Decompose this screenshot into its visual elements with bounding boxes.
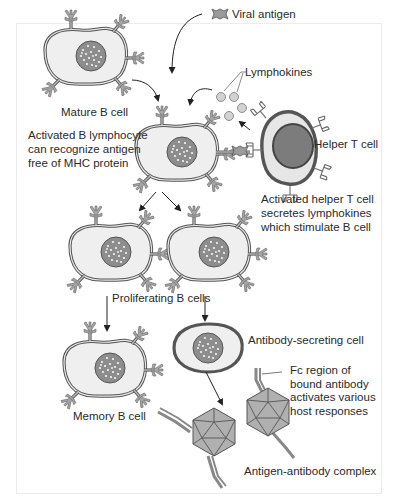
activated-helper-t-label: Activated helper T cell secretes lymphok… xyxy=(261,192,374,234)
activated-b-cell xyxy=(132,106,235,194)
mature-b-cell xyxy=(41,10,144,98)
antigen-antibody-complex-label: Antigen-antibody complex xyxy=(244,465,376,478)
fc-region-label: Fc region of bound antibody activates va… xyxy=(290,364,376,418)
mature-b-cell-label: Mature B cell xyxy=(61,106,128,119)
proliferating-b-cells-label: Proliferating B cells xyxy=(112,292,210,305)
helper-t-cell xyxy=(246,101,331,202)
lymphokine-molecules xyxy=(217,93,247,121)
activated-b-lymphocyte-label: Activated B lymphocyte can recognize ant… xyxy=(28,128,148,170)
b-cell-activation-diagram xyxy=(0,0,399,504)
helper-t-cell-label: Helper T cell xyxy=(314,138,378,151)
viral-antigen-label: Viral antigen xyxy=(232,8,296,21)
proliferating-b-cell-1 xyxy=(66,206,169,294)
antibody-secreting-cell-label: Antibody-secreting cell xyxy=(248,334,364,347)
viral-antigen-icon xyxy=(212,9,228,19)
memory-b-cell xyxy=(60,322,163,410)
antibody-secreting-cell xyxy=(174,324,242,372)
lymphokines-label: Lymphokines xyxy=(245,66,312,79)
memory-b-cell-label: Memory B cell xyxy=(73,410,146,423)
proliferating-b-cell-2 xyxy=(164,206,267,294)
